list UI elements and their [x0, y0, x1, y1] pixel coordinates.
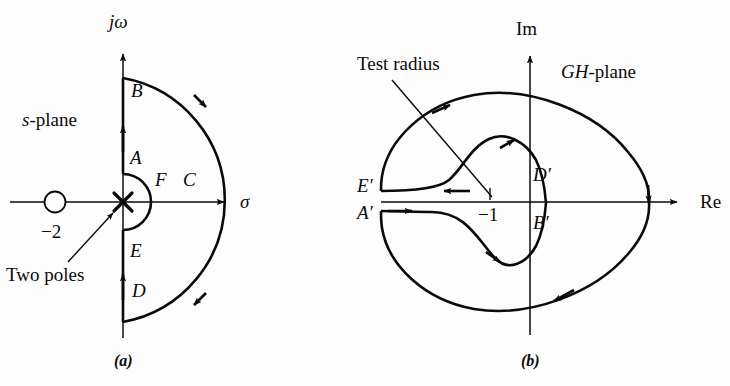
zero-marker-icon [45, 192, 66, 213]
s-plane-label: s-plane [22, 110, 77, 129]
re-axis-label: Re [700, 192, 721, 211]
gh-outer-contour [381, 203, 546, 265]
contour-label-B: B [131, 81, 143, 100]
critical-point-label: −1 [478, 205, 498, 224]
contour-label-C: C [183, 170, 196, 189]
contour-label-F: F [155, 170, 167, 189]
test-radius-label: Test radius [357, 54, 440, 73]
gh-big-oval-lower [381, 202, 649, 311]
gh-arrow-inner-upper [500, 140, 514, 148]
panel-b-tag: (b) [521, 353, 540, 369]
panel-a-s-plane [10, 54, 225, 338]
contour-label-B-prime: B′ [533, 213, 549, 232]
gh-big-oval-upper [381, 93, 649, 202]
gh-arrow-oval-right [648, 185, 649, 203]
contour-label-D: D [132, 281, 146, 300]
sigma-axis-label: σ [240, 192, 249, 211]
jomega-axis-label: jω [109, 12, 128, 31]
contour-label-A: A [130, 148, 142, 167]
test-radius-line [392, 80, 492, 197]
contour-arrow-C-lower [194, 293, 206, 305]
contour-arrow-C-upper [194, 95, 206, 107]
gh-inner-contour-upper [381, 136, 546, 203]
gh-plane-label-italic: GH [561, 61, 588, 82]
contour-label-E: E [130, 241, 142, 260]
im-axis-label: Im [516, 19, 537, 38]
gh-plane-label-rest: -plane [588, 61, 635, 82]
panel-b-gh-plane [381, 56, 677, 335]
jomega-omega: ω [114, 11, 127, 32]
contour-label-E-prime: E′ [357, 176, 373, 195]
two-poles-label: Two poles [6, 265, 84, 284]
gh-plane-label: GH-plane [561, 62, 636, 81]
contour-label-A-prime: A′ [357, 203, 373, 222]
contour-label-D-prime: D′ [533, 165, 551, 184]
figure-container: s-plane jω σ A B C D E F −2 Two poles (a… [0, 0, 730, 386]
s-plane-label-rest: -plane [29, 109, 76, 130]
gh-arrow-inner-lower [486, 252, 500, 262]
panel-a-tag: (a) [114, 353, 133, 369]
two-poles-leader-arrow [68, 213, 113, 262]
zero-value-label: −2 [41, 222, 61, 241]
